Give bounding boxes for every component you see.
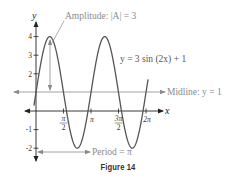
tick-labels: π2π3π22π432-1-2 (26, 32, 151, 153)
y-axis-label: y (31, 10, 37, 21)
figure-caption: Figure 14 (18, 162, 219, 172)
amplitude-label: Amplitude: |A| = 3 (65, 11, 136, 21)
x-tick-label: 2 (117, 123, 121, 132)
x-tick-label: π (62, 114, 66, 123)
y-tick-label: 3 (28, 51, 32, 60)
y-tick-label: -1 (26, 125, 32, 134)
equation-label: y = 3 sin (2x) + 1 (120, 54, 186, 65)
midline-label: Midline: y = 1 (167, 87, 222, 97)
y-tick-label: 4 (28, 32, 32, 41)
y-tick-label: -2 (26, 144, 32, 153)
x-tick-label: π (90, 115, 94, 124)
y-tick-label: 2 (28, 70, 32, 79)
sine-graph: π2π3π22π432-1-2 y x Amplitude: |A| = 3 y… (0, 0, 236, 177)
x-tick-label: 2π (143, 115, 151, 124)
period-label: Period = π (92, 147, 132, 157)
x-tick-label: 2 (62, 123, 66, 132)
x-tick-label: 3π (114, 114, 123, 123)
amplitude-leader-line (52, 21, 64, 43)
x-axis-label: x (164, 105, 170, 116)
